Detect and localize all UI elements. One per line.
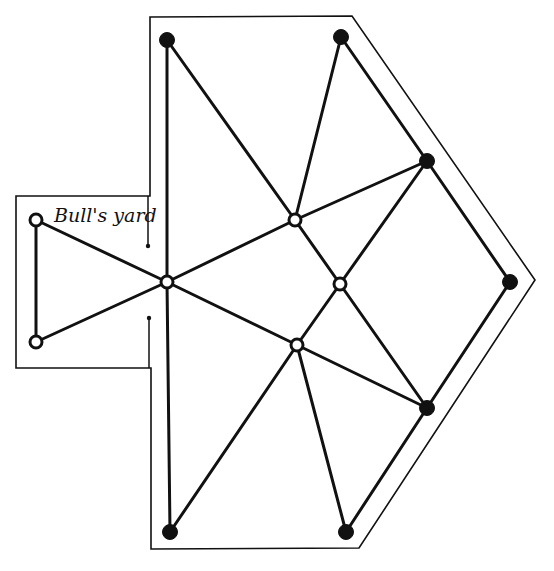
yard-gate-post-end (146, 244, 150, 248)
board-lines (36, 37, 510, 532)
board-line (167, 40, 295, 220)
game-board: Bull's yard (0, 0, 554, 571)
board-points (30, 30, 518, 540)
board-point-filled[interactable] (420, 401, 435, 416)
board-line (297, 345, 346, 532)
board-line (295, 220, 340, 284)
board-point-filled[interactable] (503, 275, 518, 290)
board-line (295, 37, 341, 220)
board-point-filled[interactable] (420, 154, 435, 169)
board-line (167, 282, 297, 345)
board-line (297, 345, 427, 408)
board-point-open[interactable] (161, 276, 173, 288)
yard-gate-post-end (147, 316, 151, 320)
board-point-open[interactable] (291, 339, 303, 351)
board-line (346, 408, 427, 532)
board-point-filled[interactable] (163, 525, 178, 540)
board-point-open[interactable] (289, 214, 301, 226)
board-line (427, 282, 510, 408)
board-point-filled[interactable] (334, 30, 349, 45)
bulls-yard-label: Bull's yard (53, 204, 157, 226)
board-point-open[interactable] (30, 336, 42, 348)
board-line (167, 282, 170, 532)
board-point-filled[interactable] (160, 33, 175, 48)
board-line (167, 220, 295, 282)
board-line (170, 345, 297, 532)
board-line (297, 284, 340, 345)
board-point-filled[interactable] (339, 525, 354, 540)
board-point-open[interactable] (30, 214, 42, 226)
board-outline (16, 16, 535, 549)
board-point-open[interactable] (334, 278, 346, 290)
board-line (341, 37, 427, 161)
board-line (36, 282, 167, 342)
board-border (16, 16, 535, 549)
board-line (340, 284, 427, 408)
board-line (427, 161, 510, 282)
